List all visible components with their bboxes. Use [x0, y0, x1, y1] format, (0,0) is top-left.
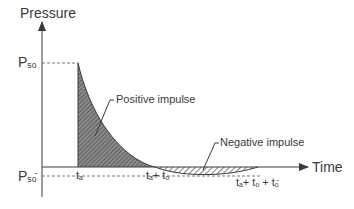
y-axis-label: Pressure	[20, 6, 76, 20]
negative-impulse-leader	[203, 143, 219, 170]
negative-peak-symbol: P	[18, 168, 27, 184]
negative-impulse-annotation: Negative impulse	[220, 137, 304, 148]
x-axis-label: Time	[312, 160, 343, 174]
peak-pressure-subscript: so	[27, 60, 36, 70]
pos-end-plus: +	[153, 169, 162, 181]
peak-pressure-label: Pso	[18, 55, 37, 70]
negative-duration-end-label: ta+ to + to-	[236, 176, 279, 189]
negative-peak-label: Pso-	[18, 168, 38, 184]
positive-duration-end-label: ta+ to	[146, 170, 169, 182]
negative-peak-superscript: -	[35, 167, 38, 178]
positive-impulse-area	[78, 63, 155, 167]
pos-end-s2: o	[165, 174, 169, 181]
arrival-time-subscript: a	[79, 174, 83, 181]
arrival-time-label: ta	[76, 170, 83, 182]
positive-impulse-annotation: Positive impulse	[116, 94, 195, 105]
neg-end-sup3: -	[277, 175, 280, 184]
neg-end-plus2: +	[259, 176, 272, 188]
neg-end-plus1: +	[243, 176, 252, 188]
peak-pressure-symbol: P	[18, 54, 27, 70]
